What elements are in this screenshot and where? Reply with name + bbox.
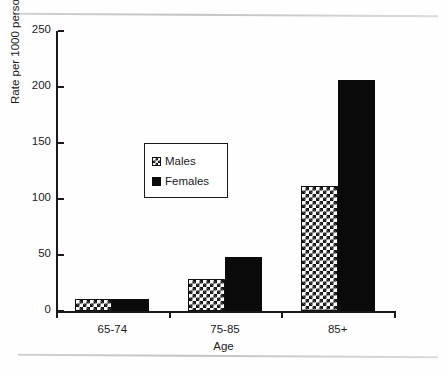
legend-label-males: Males xyxy=(165,155,196,167)
y-tick: 50 xyxy=(56,254,64,256)
y-tick: 100 xyxy=(56,198,64,200)
y-tick-label: 200 xyxy=(32,78,51,93)
y-axis-title: Rate per 1000 persons xyxy=(9,0,21,104)
legend-item-males: Males xyxy=(152,151,227,171)
x-axis-title: Age xyxy=(0,340,447,352)
bar-males-85+ xyxy=(301,186,338,311)
x-category-label: 85+ xyxy=(298,323,378,335)
y-tick-label: 250 xyxy=(32,22,51,37)
bar-females-75-85 xyxy=(225,257,262,311)
y-tick-mark xyxy=(58,86,64,88)
y-tick-mark xyxy=(58,198,64,200)
x-category-label: 65-74 xyxy=(72,323,152,335)
plot-area: 050100150200250 65-7475-8585+ Males Fema… xyxy=(56,31,394,311)
page-rule-bottom xyxy=(18,354,438,359)
x-tick-mark xyxy=(281,311,283,318)
bar-males-65-74 xyxy=(75,299,112,311)
y-tick-mark xyxy=(58,30,64,32)
y-tick-label: 0 xyxy=(45,302,51,317)
bar-females-85+ xyxy=(338,80,375,311)
y-axis-line xyxy=(56,31,58,312)
y-tick-mark xyxy=(58,142,64,144)
y-tick-mark xyxy=(58,254,64,256)
chart-legend: Males Females xyxy=(144,143,228,198)
legend-swatch-females-icon xyxy=(152,177,161,186)
y-tick: 200 xyxy=(56,86,64,88)
x-tick-mark xyxy=(394,311,396,318)
y-tick-label: 100 xyxy=(32,190,51,205)
y-tick: 150 xyxy=(56,142,64,144)
bar-females-65-74 xyxy=(112,299,149,311)
y-tick-label: 150 xyxy=(32,134,51,149)
legend-label-females: Females xyxy=(165,175,209,187)
bar-males-75-85 xyxy=(188,279,225,311)
x-tick-mark xyxy=(169,311,171,318)
y-tick: 250 xyxy=(56,30,64,32)
x-tick-mark xyxy=(56,311,58,318)
x-category-label: 75-85 xyxy=(185,323,265,335)
page-rule-top xyxy=(18,13,438,18)
legend-swatch-males-icon xyxy=(152,157,161,166)
y-tick-mark xyxy=(58,310,64,312)
x-axis-line xyxy=(56,311,394,313)
legend-item-females: Females xyxy=(152,171,227,191)
figure-bar-chart: Rate per 1000 persons 050100150200250 65… xyxy=(0,0,447,375)
y-tick-label: 50 xyxy=(38,246,51,261)
